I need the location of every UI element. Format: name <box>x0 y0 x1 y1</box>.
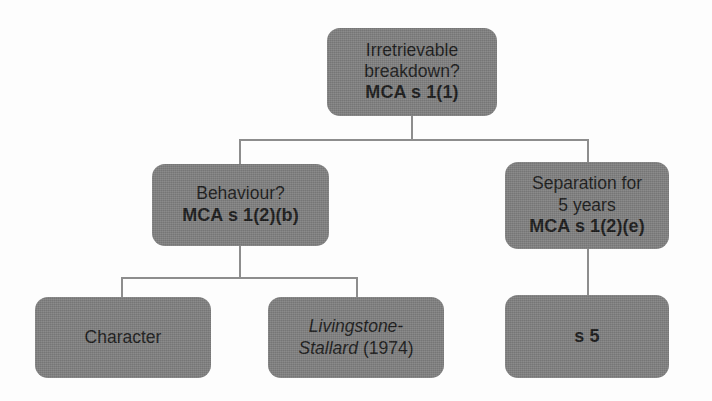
connector-to-character <box>121 277 123 298</box>
node-s5-statute: s 5 <box>574 326 599 348</box>
node-livingstone-case-year: (1974) <box>363 338 414 358</box>
decision-tree-diagram: Irretrievable breakdown? MCA s 1(1) Beha… <box>0 0 712 401</box>
node-root-statute: MCA s 1(1) <box>365 82 458 104</box>
node-root-line1: Irretrievable <box>366 40 458 61</box>
node-separation-line2: 5 years <box>558 195 615 216</box>
connector-level1-bus <box>240 139 589 141</box>
connector-behaviour-stem <box>239 246 241 279</box>
node-separation-line1: Separation for <box>532 173 642 194</box>
connector-to-behaviour <box>239 139 241 165</box>
node-separation-statute: MCA s 1(2)(e) <box>529 216 645 238</box>
node-livingstone-stallard[interactable]: Livingstone- Stallard(1974) <box>268 297 444 378</box>
connector-to-separation <box>587 139 589 163</box>
node-livingstone-case-line1: Livingstone- <box>309 316 403 337</box>
node-character-label: Character <box>85 327 162 348</box>
node-behaviour-line1: Behaviour? <box>196 183 285 204</box>
node-character[interactable]: Character <box>35 297 211 378</box>
connector-root-stem <box>411 116 413 141</box>
node-behaviour-statute: MCA s 1(2)(b) <box>182 205 299 227</box>
connector-level2-bus <box>121 277 358 279</box>
connector-separation-to-s5 <box>587 249 589 296</box>
node-livingstone-case-line2: Stallard(1974) <box>299 338 414 359</box>
connector-to-livingstone <box>356 277 358 298</box>
node-root-line2: breakdown? <box>364 61 459 82</box>
node-irretrievable-breakdown[interactable]: Irretrievable breakdown? MCA s 1(1) <box>327 28 497 116</box>
node-separation-5-years[interactable]: Separation for 5 years MCA s 1(2)(e) <box>505 162 669 249</box>
node-s5[interactable]: s 5 <box>505 295 669 378</box>
node-livingstone-case-name: Stallard <box>299 338 358 358</box>
node-behaviour[interactable]: Behaviour? MCA s 1(2)(b) <box>152 164 329 246</box>
